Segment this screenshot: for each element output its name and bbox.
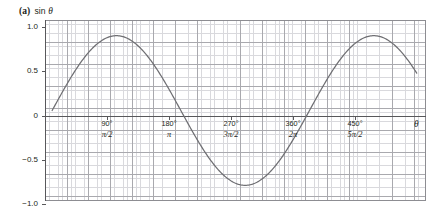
figure-label: (a) xyxy=(19,6,30,16)
x-tick-deg: 450° xyxy=(329,119,381,130)
y-tick-label-5: −1.0 xyxy=(4,199,38,208)
y-tick-label-3: 0 xyxy=(4,111,38,120)
x-tick-deg: 90° xyxy=(81,119,133,130)
x-tick-rad: π xyxy=(143,130,195,141)
figure-caption: (a)sin θ xyxy=(19,6,53,16)
x-tick-rad: 3π/2 xyxy=(205,130,257,141)
chart-figure: (a)sin θ 1.0 0.5 0 −0.5 −1.0 90° π/2 180 xyxy=(0,0,439,219)
x-tick-deg: 270° xyxy=(205,119,257,130)
theta-symbol-title: θ xyxy=(48,6,53,16)
y-tick-label-1: 1.0 xyxy=(4,22,38,31)
figure-title-text: sin xyxy=(34,6,48,16)
x-tick-rad: 5π/2 xyxy=(329,130,381,141)
x-tick-label-270: 270° 3π/2 xyxy=(205,119,257,140)
y-tick-label-2: 0.5 xyxy=(4,66,38,75)
x-axis-label: θ xyxy=(414,119,419,129)
x-tick-label-360: 360° 2π xyxy=(267,119,319,140)
x-tick-deg: 360° xyxy=(267,119,319,130)
y-tick-mark xyxy=(42,204,46,205)
x-tick-rad: π/2 xyxy=(81,130,133,141)
x-tick-label-90: 90° π/2 xyxy=(81,119,133,140)
x-tick-label-450: 450° 5π/2 xyxy=(329,119,381,140)
y-tick-label-4: −0.5 xyxy=(4,155,38,164)
x-tick-rad: 2π xyxy=(267,130,319,141)
x-tick-label-180: 180° π xyxy=(143,119,195,140)
x-tick-deg: 180° xyxy=(143,119,195,130)
sine-curve xyxy=(45,20,426,201)
plot-area xyxy=(45,20,426,201)
figure-title: sin θ xyxy=(34,6,53,16)
